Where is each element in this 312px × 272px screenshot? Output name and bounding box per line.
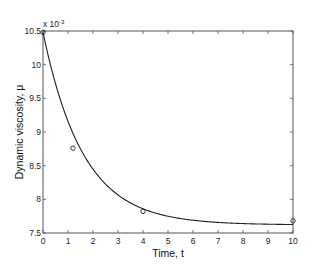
x-tick-label: 5 [166,236,171,246]
x-tick-label: 0 [41,236,46,246]
y-tick-label: 10.5 [24,26,41,36]
x-tick-label: 4 [141,236,146,246]
y-tick-label: 8.5 [29,161,41,171]
y-tick-label: 10 [32,60,42,70]
y-tick-label: 9 [36,127,41,137]
y-axis-label: Dynamic viscosity, μ [13,85,25,180]
x-tick-label: 6 [191,236,196,246]
y-tick-label: 9.5 [29,93,41,103]
data-markers [41,30,295,223]
viscosity-chart: 0123456789107.588.599.51010.5x 10-3 Time… [0,0,312,272]
x-tick-label: 2 [91,236,96,246]
x-tick-label: 3 [116,236,121,246]
data-point [141,209,145,213]
plot-axes: 0123456789107.588.599.51010.5x 10-3 [24,19,298,246]
plot-frame [43,31,293,233]
data-point [71,146,75,150]
x-tick-label: 7 [216,236,221,246]
fitted-curve [43,32,293,224]
x-tick-label: 10 [288,236,298,246]
x-axis-label: Time, t [152,247,184,259]
y-tick-label: 7.5 [29,228,41,238]
y-exponent-label: x 10-3 [43,19,65,29]
x-tick-label: 1 [66,236,71,246]
x-tick-label: 9 [266,236,271,246]
y-tick-label: 8 [36,194,41,204]
x-tick-label: 8 [241,236,246,246]
